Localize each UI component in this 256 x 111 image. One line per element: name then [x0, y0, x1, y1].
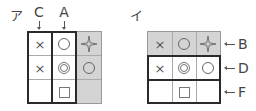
double-circle-icon: [178, 62, 190, 74]
arrow-down-icon: [39, 21, 40, 28]
cell: [52, 80, 76, 104]
panel-b-label: イ: [130, 5, 143, 24]
column-label-a: A: [58, 4, 70, 20]
cell: [52, 56, 76, 80]
square-icon: [179, 87, 190, 98]
sparkle-icon: [200, 36, 216, 52]
cell: ×: [28, 56, 52, 80]
cell: [52, 32, 76, 56]
row-label-d: D: [238, 60, 249, 76]
cell: [196, 32, 220, 56]
cross-icon: ×: [35, 62, 46, 75]
circle-icon: [83, 62, 95, 74]
cell: ×: [148, 32, 172, 56]
circle-icon: [202, 62, 214, 74]
cell: [196, 56, 220, 80]
arrow-down-icon: [64, 21, 65, 28]
double-circle-icon: [58, 62, 70, 74]
row-label-f: F: [238, 84, 246, 100]
cell: ×: [148, 56, 172, 80]
panel-a-label: ア: [10, 5, 23, 24]
cell: ×: [28, 32, 52, 56]
row-label-b: B: [238, 36, 248, 52]
arrow-left-icon: [226, 44, 235, 45]
arrow-left-icon: [226, 92, 235, 93]
cross-icon: ×: [35, 38, 46, 51]
cell: [172, 32, 196, 56]
cell: [77, 56, 101, 80]
cell: [77, 32, 101, 56]
column-label-c: C: [33, 4, 45, 20]
square-icon: [59, 87, 70, 98]
sparkle-icon: [81, 36, 97, 52]
cross-icon: ×: [155, 62, 166, 75]
circle-icon: [58, 38, 70, 50]
circle-icon: [178, 38, 190, 50]
arrow-left-icon: [226, 68, 235, 69]
cross-icon: ×: [155, 38, 166, 51]
cell: [172, 56, 196, 80]
cell: [172, 80, 196, 104]
